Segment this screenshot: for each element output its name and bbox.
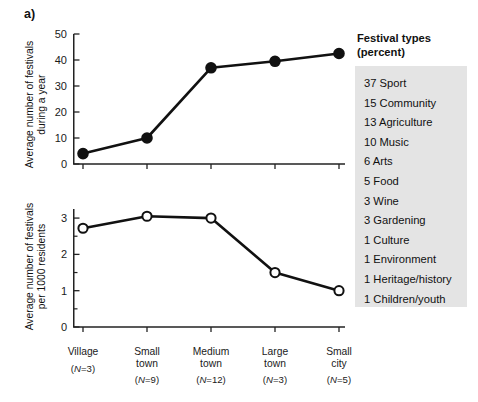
festival-type-item: 1 Children/youth	[364, 293, 445, 305]
data-point-small-city	[334, 49, 344, 59]
top-chart-svg	[73, 26, 345, 178]
x-axis-category-name: Village	[47, 346, 119, 358]
festival-type-item: 1 Heritage/history	[364, 273, 452, 285]
festival-type-item: 3 Gardening	[364, 214, 426, 226]
data-point-medium-town	[206, 213, 215, 222]
y-tick-label: 0	[61, 321, 67, 333]
festival-type-item: 6 Arts	[364, 155, 393, 167]
figure-panel-b: b) Festival types (percent) 37 Sport15 C…	[355, 0, 478, 402]
y-tick-label: 20	[55, 106, 67, 118]
data-point-small-town	[142, 212, 151, 221]
data-point-small-city	[334, 286, 343, 295]
x-axis-sample-size: (N=3)	[47, 363, 119, 375]
y-axis-tick-labels-bottom-chart: 0123	[41, 199, 67, 341]
x-axis-category-name: Small town	[111, 346, 183, 369]
data-point-large-town	[270, 56, 280, 66]
data-point-village	[78, 149, 88, 159]
festival-type-item: 1 Culture	[364, 234, 409, 246]
figure-panel-a: a) Average number of festivals during a …	[0, 0, 345, 402]
bottom-line-chart-plot	[73, 199, 345, 341]
data-point-village	[78, 224, 87, 233]
festival-type-item: 37 Sport	[364, 77, 406, 89]
x-axis-category-name: Large town	[239, 346, 311, 369]
y-tick-label: 1	[61, 285, 67, 297]
festival-type-item: 1 Environment	[364, 253, 436, 265]
y-tick-label: 40	[55, 54, 67, 66]
festival-type-item: 13 Agriculture	[364, 116, 432, 128]
festival-type-item: 5 Food	[364, 175, 399, 187]
data-point-small-town	[142, 133, 152, 143]
y-axis-tick-labels-top-chart: 01020304050	[41, 26, 67, 178]
festival-types-heading: Festival types (percent)	[357, 31, 431, 59]
y-tick-label: 10	[55, 132, 67, 144]
festival-type-item: 3 Wine	[364, 195, 399, 207]
data-point-medium-town	[206, 63, 216, 73]
y-tick-label: 50	[55, 28, 67, 40]
panel-a-letter: a)	[24, 7, 35, 21]
x-axis-label-small-town: Small town(N=9)	[111, 346, 183, 386]
y-tick-label: 0	[61, 158, 67, 170]
festival-types-list: 37 Sport15 Community13 Agriculture10 Mus…	[355, 66, 467, 307]
festival-type-item: 15 Community	[364, 97, 436, 109]
bottom-chart-svg	[73, 199, 345, 341]
y-tick-label: 2	[61, 248, 67, 260]
y-tick-label: 30	[55, 80, 67, 92]
x-axis-label-medium-town: Medium town(N=12)	[175, 346, 247, 386]
y-tick-label: 3	[61, 212, 67, 224]
x-axis-label-village: Village(N=3)	[47, 346, 119, 374]
top-line-chart-plot	[73, 26, 345, 178]
x-axis-sample-size: (N=3)	[239, 374, 311, 386]
festival-type-item: 10 Music	[364, 136, 409, 148]
x-axis-category-name: Medium town	[175, 346, 247, 369]
x-axis-label-large-town: Large town(N=3)	[239, 346, 311, 386]
x-axis-category-labels: Village(N=3)Small town(N=9)Medium town(N…	[73, 346, 345, 398]
x-axis-sample-size: (N=12)	[175, 374, 247, 386]
x-axis-sample-size: (N=9)	[111, 374, 183, 386]
data-point-large-town	[270, 268, 279, 277]
